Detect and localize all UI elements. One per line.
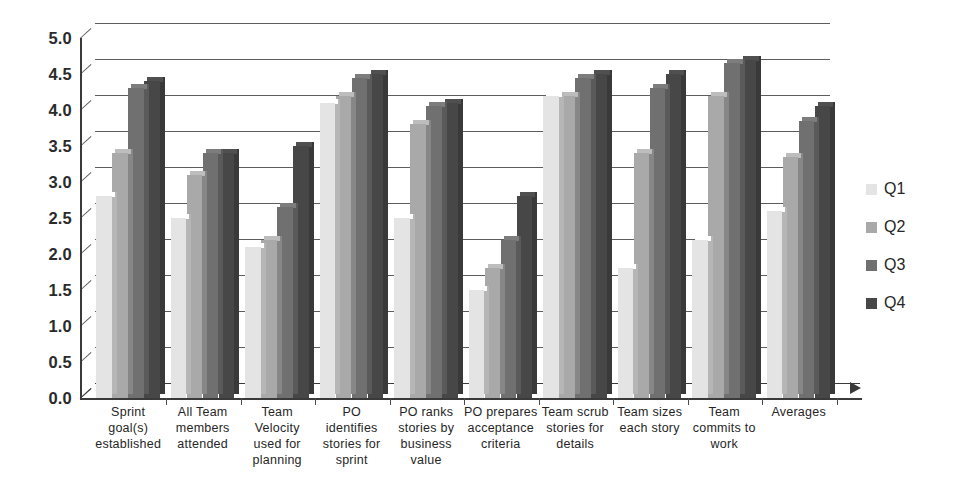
x-axis-category-label-line: details — [533, 436, 617, 452]
x-axis-category-label: Teamcommits towork — [682, 404, 766, 452]
bar-side-face — [128, 149, 133, 394]
x-axis-category-label-line: Team scrub — [533, 404, 617, 420]
bar-front-face — [543, 96, 559, 398]
y-axis-tick-label: 0.5 — [20, 354, 72, 371]
x-axis-category-label-line: stories by — [384, 420, 468, 436]
bar-front-face — [394, 218, 410, 398]
bar-front-face — [320, 103, 336, 398]
x-axis-category-label: POidentifiesstories forsprint — [310, 404, 394, 468]
bar-side-face — [532, 192, 537, 394]
bar-side-face — [814, 117, 819, 394]
y-axis-tick-label: 4.5 — [20, 66, 72, 83]
legend-label: Q1 — [884, 181, 905, 197]
x-axis-category-label-line: PO prepares — [459, 404, 543, 420]
x-axis-category-label-line: each story — [608, 420, 692, 436]
x-axis-category-label-line: stories for — [310, 436, 394, 452]
chart-legend: Q1Q2Q3Q4 — [866, 170, 946, 322]
x-axis-category-label-line: criteria — [459, 436, 543, 452]
y-axis-tick-label: 3.5 — [20, 138, 72, 155]
x-axis-category-label-line: used for — [235, 436, 319, 452]
bar — [767, 211, 783, 398]
bar-side-face — [426, 120, 431, 394]
bar-side-face — [112, 192, 117, 394]
bar-front-face — [692, 240, 708, 398]
bar-side-face — [559, 92, 564, 394]
bar-side-face — [218, 149, 223, 394]
bar-side-face — [234, 149, 239, 394]
bar-side-face — [708, 236, 713, 394]
x-axis-category-label: All Teammembersattended — [161, 404, 245, 452]
y-axis-tick-label: 0.0 — [20, 390, 72, 407]
bar-side-face — [367, 74, 372, 394]
bar-chart: 5.04.54.03.53.02.52.01.51.00.50.0 Sprint… — [0, 0, 953, 497]
x-axis-category-label-line: sprint — [310, 452, 394, 468]
x-axis-category-label: Averages — [757, 404, 841, 420]
bar — [320, 103, 336, 398]
bar — [171, 218, 187, 398]
y-axis-tick-label: 3.0 — [20, 174, 72, 191]
bar — [469, 290, 485, 398]
bar-side-face — [293, 203, 298, 394]
x-axis-category-label-line: goal(s) — [86, 420, 170, 436]
y-axis-tick-label: 1.0 — [20, 318, 72, 335]
bar-side-face — [607, 70, 612, 394]
y-axis-tick-label: 4.0 — [20, 102, 72, 119]
x-axis-category-label-line: stories for — [533, 420, 617, 436]
y-axis-tick-label: 5.0 — [20, 30, 72, 47]
legend-item-q1[interactable]: Q1 — [866, 170, 946, 208]
legend-swatch-icon — [866, 222, 877, 233]
legend-item-q3[interactable]: Q3 — [866, 246, 946, 284]
bar — [543, 96, 559, 398]
y-axis-tick-label: 2.5 — [20, 210, 72, 227]
x-axis-category-label-line: Team sizes — [608, 404, 692, 420]
legend-item-q2[interactable]: Q2 — [866, 208, 946, 246]
legend-item-q4[interactable]: Q4 — [866, 284, 946, 322]
bar-side-face — [277, 236, 282, 394]
bar-side-face — [484, 286, 489, 394]
x-axis-category-label-line: Velocity — [235, 420, 319, 436]
bar-side-face — [740, 59, 745, 394]
bar-front-face — [171, 218, 187, 398]
legend-label: Q3 — [884, 257, 905, 273]
x-axis-category-label-line: work — [682, 436, 766, 452]
bar-side-face — [410, 214, 415, 394]
bar-side-face — [160, 77, 165, 394]
y-axis-tick-label: 1.5 — [20, 282, 72, 299]
bar-side-face — [186, 214, 191, 394]
bar-side-face — [144, 84, 149, 394]
bar-front-face — [469, 290, 485, 398]
bar-front-face — [767, 211, 783, 398]
x-axis-category-label-line: Averages — [757, 404, 841, 420]
bar-front-face — [245, 247, 261, 398]
x-axis-arrow-icon — [850, 382, 861, 394]
x-axis-category-label-line: PO — [310, 404, 394, 420]
legend-label: Q2 — [884, 219, 905, 235]
x-axis-category-label: Sprintgoal(s)established — [86, 404, 170, 452]
bar-side-face — [665, 84, 670, 394]
bar-side-face — [383, 70, 388, 394]
plot-area — [80, 20, 840, 420]
bar — [96, 196, 112, 398]
legend-swatch-icon — [866, 298, 877, 309]
bar — [692, 240, 708, 398]
x-axis-category-label-line: business — [384, 436, 468, 452]
x-axis-category-label: Team scrubstories fordetails — [533, 404, 617, 452]
bar-side-face — [351, 92, 356, 394]
bar-side-face — [633, 264, 638, 394]
x-axis-category-label-line: value — [384, 452, 468, 468]
bar-side-face — [681, 70, 686, 394]
bar-side-face — [830, 102, 835, 394]
bar — [618, 268, 634, 398]
bars-layer — [80, 20, 840, 420]
x-axis-category-label-line: identifies — [310, 420, 394, 436]
y-axis-tick-label: 2.0 — [20, 246, 72, 263]
bar-side-face — [202, 171, 207, 394]
legend-swatch-icon — [866, 184, 877, 195]
legend-label: Q4 — [884, 295, 905, 311]
bar-side-face — [500, 264, 505, 394]
bar-side-face — [575, 92, 580, 394]
bar-side-face — [335, 99, 340, 394]
bar — [394, 218, 410, 398]
bar-side-face — [724, 92, 729, 394]
x-axis-category-label-line: Sprint — [86, 404, 170, 420]
